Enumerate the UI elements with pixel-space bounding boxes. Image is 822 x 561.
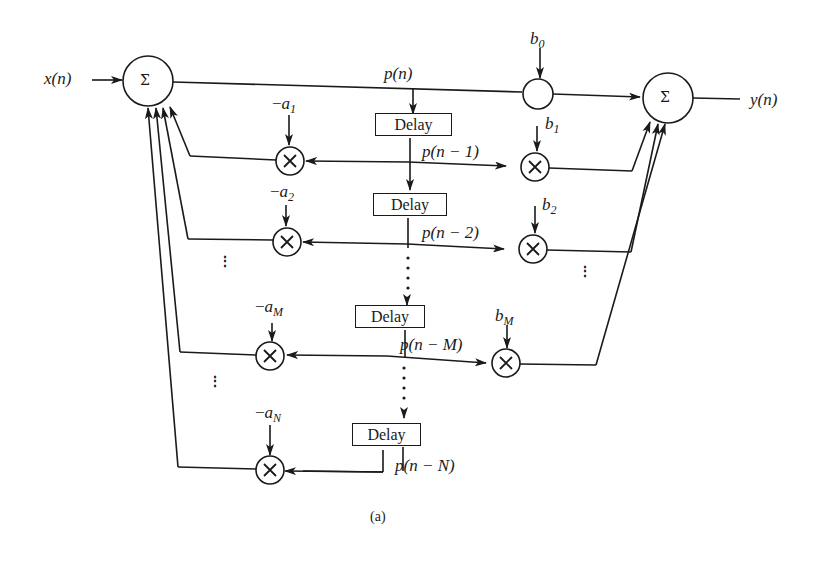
right-ellipsis: ⋮ bbox=[578, 268, 592, 275]
signal-p-n-1: p(n − 1) bbox=[422, 143, 479, 160]
coeff-neg-aM: −aM bbox=[255, 298, 283, 318]
left-ellipsis-lower: ⋮ bbox=[208, 378, 222, 385]
coeff-neg-aN: −aN bbox=[255, 404, 281, 424]
output-label: y(n) bbox=[750, 91, 777, 108]
signal-p-n-M: p(n − M) bbox=[400, 336, 462, 353]
coeff-b2: b2 bbox=[542, 196, 557, 216]
right-adder-symbol: Σ bbox=[660, 89, 670, 105]
coeff-bM: bM bbox=[495, 307, 514, 327]
flow-lines bbox=[0, 0, 822, 561]
signal-p-n-2: p(n − 2) bbox=[422, 224, 479, 241]
left-ellipsis-upper: ⋮ bbox=[218, 258, 232, 265]
b0-node bbox=[523, 79, 553, 109]
delay-block-2: Delay bbox=[373, 193, 447, 216]
delay-block-M: Delay bbox=[355, 305, 425, 328]
delay-block-1: Delay bbox=[375, 113, 452, 136]
coeff-b0: b0 bbox=[530, 30, 545, 50]
figure-caption: (a) bbox=[370, 509, 386, 525]
signal-p-n-N: p(n − N) bbox=[395, 457, 455, 474]
signal-p-n: p(n) bbox=[384, 65, 412, 82]
coeff-b1: b1 bbox=[545, 115, 560, 135]
coeff-neg-a2: −a2 bbox=[270, 183, 294, 203]
input-label: x(n) bbox=[44, 70, 71, 87]
delay-block-N: Delay bbox=[352, 423, 421, 446]
left-adder-symbol: Σ bbox=[140, 72, 150, 88]
coeff-neg-a1: −a1 bbox=[272, 95, 296, 115]
